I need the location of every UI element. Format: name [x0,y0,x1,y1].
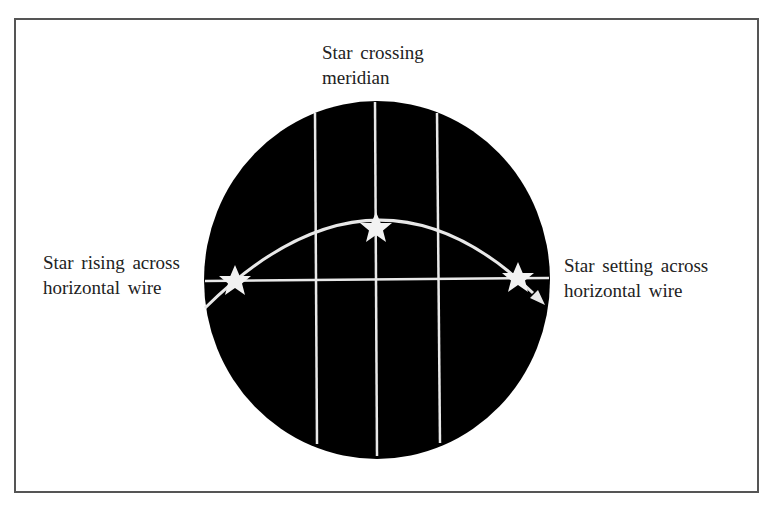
label-star-crossing-meridian: Star crossing meridian [322,40,424,90]
label-line: Star rising across [43,250,180,275]
label-star-rising: Star rising across horizontal wire [43,250,180,300]
label-line: horizontal wire [43,275,180,300]
label-line: horizontal wire [564,278,708,303]
label-line: meridian [322,65,424,90]
label-star-setting: Star setting across horizontal wire [564,253,708,303]
label-line: Star crossing [322,40,424,65]
label-line: Star setting across [564,253,708,278]
